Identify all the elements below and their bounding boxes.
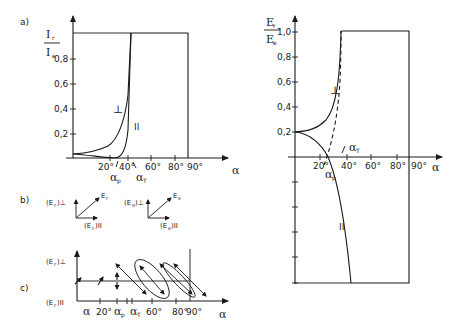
panel-a-left-chart: a) I r I e α 0,2 0,4 0,6 0,8 [20, 16, 240, 185]
svg-text:40°: 40° [341, 161, 357, 171]
svg-text:60°: 60° [145, 162, 161, 172]
panel-c-label: c) [20, 283, 28, 293]
svg-text:80°: 80° [390, 161, 406, 171]
svg-text:E: E [101, 192, 105, 200]
svg-text:)⊥: )⊥ [135, 199, 144, 207]
svg-text:0,2: 0,2 [277, 127, 291, 137]
vector-diagram-reflected: (E r )⊥ E r (E r )II [46, 192, 109, 231]
svg-text:20°: 20° [96, 307, 112, 317]
svg-text:p: p [121, 311, 125, 319]
svg-text:(E: (E [84, 222, 91, 230]
svg-text:60°: 60° [146, 307, 162, 317]
svg-text:80°: 80° [168, 162, 184, 172]
svg-text:α: α [219, 308, 227, 321]
svg-text:E: E [173, 192, 177, 200]
right-label-perpendicular: ⊥ [330, 84, 340, 97]
svg-text:0,2: 0,2 [54, 129, 68, 139]
svg-text:I: I [46, 28, 50, 41]
label-parallel: II [134, 122, 139, 132]
svg-text:90°: 90° [186, 307, 202, 317]
svg-text:p: p [332, 174, 336, 182]
svg-text:90°: 90° [411, 161, 427, 171]
svg-text:r: r [52, 34, 55, 41]
panel-c-polarization: c) (E r )⊥ (E r )II α 20° α p α T [20, 249, 228, 321]
svg-text:0,6: 0,6 [54, 79, 69, 89]
panel-a-label: a) [20, 17, 29, 27]
svg-text:I: I [46, 46, 50, 59]
svg-text:40°: 40° [119, 162, 135, 172]
svg-text:T: T [355, 147, 360, 154]
right-curve-perpendicular [295, 31, 341, 132]
svg-text:0,6: 0,6 [277, 77, 292, 87]
left-x-axis-label: α [232, 164, 240, 177]
svg-text:α: α [83, 305, 91, 318]
svg-text:0,8: 0,8 [54, 54, 69, 64]
svg-text:)⊥: )⊥ [57, 199, 66, 207]
panel-b-label: b) [20, 195, 29, 205]
c-y-bot-label: (E [46, 299, 53, 307]
svg-text:90°: 90° [187, 162, 203, 172]
right-curve-dashed [324, 31, 341, 165]
c-y-top-label: (E [46, 258, 53, 266]
svg-text:(E: (E [46, 199, 53, 207]
svg-text:r: r [273, 22, 276, 29]
svg-text:60°: 60° [365, 161, 381, 171]
svg-text:)II: )II [171, 222, 178, 230]
svg-text:0,8: 0,8 [277, 52, 292, 62]
svg-text:0,4: 0,4 [54, 104, 69, 114]
svg-text:)⊥: )⊥ [57, 258, 66, 266]
svg-text:p: p [117, 177, 121, 185]
total-reflection-plateau [131, 33, 188, 158]
svg-text:1,0: 1,0 [277, 27, 292, 37]
figure-canvas: a) I r I e α 0,2 0,4 0,6 0,8 [0, 0, 457, 328]
svg-text:(E: (E [160, 222, 167, 230]
label-perpendicular: ⊥ [113, 103, 123, 116]
svg-text:)II: )II [57, 299, 64, 307]
svg-text:T: T [142, 177, 147, 184]
curve-parallel [73, 33, 131, 158]
svg-text:(E: (E [124, 199, 131, 207]
vector-diagram-incident: (E e )⊥ E e (E e )II [124, 192, 181, 231]
svg-text:T: T [136, 311, 141, 318]
right-label-parallel: II [339, 222, 344, 232]
svg-text:0,4: 0,4 [277, 102, 292, 112]
c-x-labels: α 20° α p α T 60° 80° 90° α [83, 305, 227, 321]
curve-perpendicular [73, 33, 131, 154]
svg-text:)II: )II [95, 222, 102, 230]
svg-text:r: r [106, 195, 109, 201]
svg-text:e: e [178, 195, 181, 201]
panel-b-vectors: b) (E r )⊥ E r (E r )II (E e )⊥ E e (E e [20, 192, 181, 231]
polarization-ellipse-1 [129, 254, 175, 304]
right-curve-parallel [295, 132, 351, 283]
svg-text:e: e [273, 39, 277, 46]
right-x-axis-label: α [432, 161, 440, 174]
panel-a-right-chart: E r E e α 0,2 0,4 0,6 0,8 1,0 [264, 16, 442, 284]
